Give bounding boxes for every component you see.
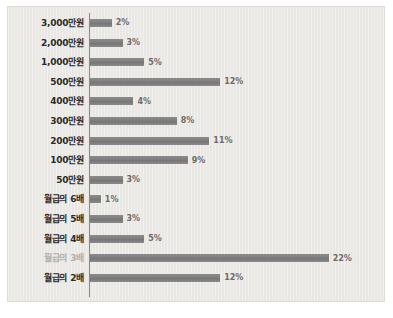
bar-value-label: 1% (105, 195, 119, 204)
bar-value-label: 3% (127, 175, 141, 184)
bar-row: 500만원12% (8, 72, 384, 91)
bar[interactable] (90, 78, 220, 86)
bar-track: 5% (90, 229, 162, 248)
bar-row: 2,000만원3% (8, 33, 384, 52)
bar-row: 50만원3% (8, 170, 384, 189)
bar-row: 월급의 2배12% (8, 268, 384, 287)
bar[interactable] (90, 195, 101, 203)
bar[interactable] (90, 156, 188, 164)
bar-track: 9% (90, 151, 205, 170)
category-label: 월급의 6배 (8, 194, 84, 204)
bar-row: 월급의 3배22% (8, 249, 384, 268)
bar-row: 400만원4% (8, 92, 384, 111)
bar-track: 11% (90, 131, 233, 150)
bar[interactable] (90, 117, 177, 125)
bar[interactable] (90, 58, 144, 66)
bar[interactable] (90, 235, 144, 243)
bar-row: 월급의 6배1% (8, 190, 384, 209)
category-label: 100만원 (8, 155, 84, 165)
bar-row: 월급의 4배5% (8, 229, 384, 248)
category-label: 2,000만원 (8, 38, 84, 48)
category-label: 월급의 4배 (8, 234, 84, 244)
bar-track: 3% (90, 33, 140, 52)
bar[interactable] (90, 97, 133, 105)
category-label: 월급의 3배 (8, 253, 84, 263)
horizontal-bar-chart: 3,000만원2%2,000만원3%1,000만원5%500만원12%400만원… (0, 0, 393, 318)
bar-value-label: 9% (192, 156, 206, 165)
bar-track: 2% (90, 13, 129, 32)
bar-row: 월급의 5배3% (8, 209, 384, 228)
bar-row: 100만원9% (8, 151, 384, 170)
bar-value-label: 12% (224, 77, 243, 86)
bar-value-label: 2% (116, 18, 130, 27)
bar-track: 3% (90, 170, 140, 189)
bar-value-label: 22% (333, 254, 352, 263)
bar-track: 4% (90, 92, 151, 111)
bar-track: 1% (90, 190, 118, 209)
bar[interactable] (90, 274, 220, 282)
bar-track: 12% (90, 72, 243, 91)
category-label: 1,000만원 (8, 57, 84, 67)
bar-row: 1,000만원5% (8, 53, 384, 72)
plot-panel: 3,000만원2%2,000만원3%1,000만원5%500만원12%400만원… (7, 6, 385, 302)
category-label: 50만원 (8, 175, 84, 185)
bar-value-label: 5% (148, 234, 162, 243)
bar-track: 5% (90, 53, 162, 72)
bar-value-label: 4% (137, 97, 151, 106)
bar-value-label: 3% (127, 214, 141, 223)
bar[interactable] (90, 176, 123, 184)
bar[interactable] (90, 39, 123, 47)
category-label: 400만원 (8, 96, 84, 106)
category-label: 3,000만원 (8, 18, 84, 28)
bar[interactable] (90, 215, 123, 223)
bar-track: 22% (90, 249, 352, 268)
bar-row: 3,000만원2% (8, 13, 384, 32)
bar-track: 3% (90, 209, 140, 228)
bar-row: 300만원8% (8, 111, 384, 130)
category-label: 500만원 (8, 77, 84, 87)
bar-value-label: 5% (148, 58, 162, 67)
bar-value-label: 8% (181, 116, 195, 125)
bar-track: 12% (90, 268, 243, 287)
category-label: 월급의 5배 (8, 214, 84, 224)
bar-value-label: 3% (127, 38, 141, 47)
category-label: 300만원 (8, 116, 84, 126)
bar-rows-container: 3,000만원2%2,000만원3%1,000만원5%500만원12%400만원… (8, 7, 384, 301)
bar-value-label: 12% (224, 273, 243, 282)
category-label: 200만원 (8, 136, 84, 146)
bar[interactable] (90, 19, 112, 27)
bar[interactable] (90, 254, 329, 262)
category-label: 월급의 2배 (8, 273, 84, 283)
bar-track: 8% (90, 111, 194, 130)
bar-row: 200만원11% (8, 131, 384, 150)
bar[interactable] (90, 137, 209, 145)
bar-value-label: 11% (213, 136, 232, 145)
